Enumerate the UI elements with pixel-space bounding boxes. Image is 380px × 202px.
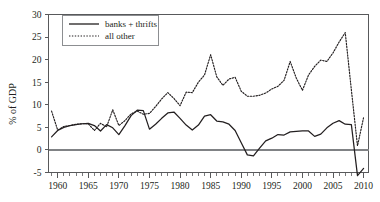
y-axis-title-label: % of GDP <box>7 83 18 125</box>
legend-label-all-other: all other <box>105 31 135 41</box>
y-tick-label: 15 <box>32 78 42 88</box>
y-axis-tick-labels: -5051015202530 <box>32 10 42 178</box>
x-axis-tick-labels: 1960196519701975198019851990199520002005… <box>48 181 373 191</box>
x-tick-label: 1995 <box>262 181 281 191</box>
x-tick-label: 1990 <box>232 181 251 191</box>
x-tick-label: 2000 <box>293 181 312 191</box>
y-tick-label: 10 <box>32 100 42 110</box>
y-tick-label: 0 <box>37 145 42 155</box>
chart-figure: -5051015202530 1960196519701975198019851… <box>0 0 380 202</box>
legend: banks + thrifts all other <box>62 15 158 45</box>
y-tick-label: 30 <box>32 10 42 20</box>
x-tick-label: 1970 <box>109 181 128 191</box>
series-line-banks-thrifts <box>52 110 364 175</box>
line-chart: -5051015202530 1960196519701975198019851… <box>0 0 380 202</box>
x-tick-label: 1980 <box>171 181 190 191</box>
series-group <box>52 33 364 176</box>
x-tick-label: 2010 <box>354 181 373 191</box>
y-tick-label: 25 <box>32 32 42 42</box>
x-tick-label: 1985 <box>201 181 220 191</box>
y-tick-label: 20 <box>32 55 42 65</box>
x-tick-label: 1975 <box>140 181 159 191</box>
x-axis-ticks <box>58 173 364 178</box>
y-axis-ticks <box>45 15 49 173</box>
x-tick-label: 1965 <box>79 181 98 191</box>
x-tick-label: 1960 <box>48 181 67 191</box>
legend-label-banks-thrifts: banks + thrifts <box>105 19 158 29</box>
y-tick-label: -5 <box>34 168 42 178</box>
y-axis-title: % of GDP <box>7 83 18 125</box>
x-tick-label: 2005 <box>324 181 343 191</box>
y-tick-label: 5 <box>37 123 42 133</box>
